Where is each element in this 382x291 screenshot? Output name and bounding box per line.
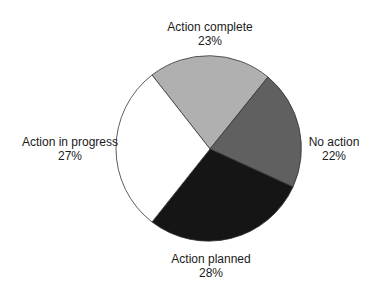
label-value: 23%: [167, 34, 252, 48]
label-value: 27%: [22, 149, 118, 163]
label-name: No action: [309, 135, 360, 149]
label-name: Action planned: [171, 252, 250, 266]
label-value: 22%: [309, 149, 360, 163]
label-action-planned: Action planned 28%: [171, 252, 250, 280]
label-name: Action in progress: [22, 135, 118, 149]
label-no-action: No action 22%: [309, 135, 360, 163]
label-name: Action complete: [167, 20, 252, 34]
label-action-complete: Action complete 23%: [167, 20, 252, 48]
label-value: 28%: [171, 266, 250, 280]
label-action-in-progress: Action in progress 27%: [22, 135, 118, 163]
